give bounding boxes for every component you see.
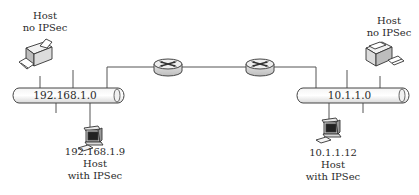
router-1-icon: [154, 59, 182, 76]
left-printer-label-line-2: no IPSec: [20, 22, 70, 34]
right-printer-label-line-2: no IPSec: [363, 27, 415, 39]
right-computer-ip: 10.1.1.12: [300, 147, 366, 159]
left-printer-icon: [19, 39, 52, 69]
wan-links: [107, 67, 316, 88]
left-computer-label-line-3: with IPSec: [60, 170, 130, 182]
right-computer-label: 10.1.1.12 Host with IPSec: [300, 147, 366, 183]
right-printer-icon: [366, 42, 404, 66]
left-network-label: 192.168.1.0: [13, 89, 117, 101]
right-computer-label-line-3: with IPSec: [300, 171, 366, 183]
router-2-icon: [246, 59, 274, 76]
right-printer-label-line-1: Host: [363, 15, 415, 27]
right-computer-label-line-2: Host: [300, 159, 366, 171]
left-computer-ip: 192.168.1.9: [60, 146, 130, 158]
right-printer-label: Host no IPSec: [363, 15, 415, 39]
left-computer-label: 192.168.1.9 Host with IPSec: [60, 146, 130, 182]
left-computer-label-line-2: Host: [60, 158, 130, 170]
right-computer-icon: [316, 118, 341, 143]
left-printer-label: Host no IPSec: [20, 10, 70, 34]
left-printer-label-line-1: Host: [20, 10, 70, 22]
right-network-label: 10.1.1.0: [297, 89, 402, 101]
